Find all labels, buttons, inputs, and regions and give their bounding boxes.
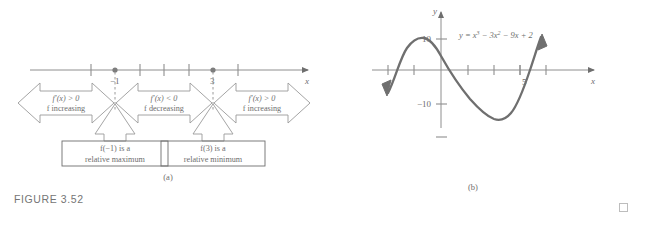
y-tick-label-neg10: −10 — [417, 99, 432, 109]
cubic-curve — [388, 37, 541, 120]
interval-3-sign-label: f′(x) > 0 — [249, 94, 276, 103]
panel-a: x −1 3 f′(x) > 0 f increasing f′(x) < 0 … — [18, 64, 310, 182]
critical-point-dot-3 — [210, 67, 215, 72]
y-axis-label: y — [432, 6, 437, 16]
interval-arrow-3: f′(x) > 0 f increasing — [214, 83, 310, 123]
callout-arrow-1 — [95, 104, 135, 141]
panel-a-label: (a) — [163, 172, 173, 182]
interval-2-sign-label: f′(x) < 0 — [151, 94, 178, 103]
corner-square-marker — [619, 203, 628, 212]
critical-point-dot-neg1 — [112, 67, 117, 72]
callout-2-line2: relative minimum — [184, 155, 243, 164]
x-axis-label: x — [590, 76, 595, 86]
figure-svg: x −1 3 f′(x) > 0 f increasing f′(x) < 0 … — [0, 0, 647, 230]
figure-3-52: x −1 3 f′(x) > 0 f increasing f′(x) < 0 … — [0, 0, 647, 230]
callout-box-2: f(3) is a relative minimum — [161, 141, 265, 166]
panel-a-axis-label: x — [304, 76, 309, 86]
equation-label: y = x3 − 3x2 − 9x + 2 — [458, 30, 534, 40]
number-line: x −1 3 — [30, 64, 309, 86]
interval-2-behavior-label: f decreasing — [144, 104, 184, 113]
callout-2-line1: f(3) is a — [200, 144, 226, 153]
panel-b-label: (b) — [468, 182, 478, 192]
callout-box-1: f(−1) is a relative maximum — [62, 141, 168, 166]
interval-arrow-2: f′(x) < 0 f decreasing — [116, 83, 212, 123]
panel-b: y x 10 −10 5 y = x3 − 3x2 − 9x + 2 (b) — [372, 6, 595, 192]
interval-1-behavior-label: f increasing — [47, 104, 85, 113]
callout-1-line1: f(−1) is a — [100, 144, 130, 153]
callout-1-line2: relative maximum — [85, 155, 145, 164]
callout-arrow-2 — [193, 104, 233, 141]
critical-point-label-3: 3 — [210, 76, 215, 86]
interval-1-sign-label: f′(x) > 0 — [53, 94, 80, 103]
interval-arrow-1: f′(x) > 0 f increasing — [18, 83, 114, 123]
interval-3-behavior-label: f increasing — [243, 104, 281, 113]
figure-caption: FIGURE 3.52 — [14, 193, 84, 205]
